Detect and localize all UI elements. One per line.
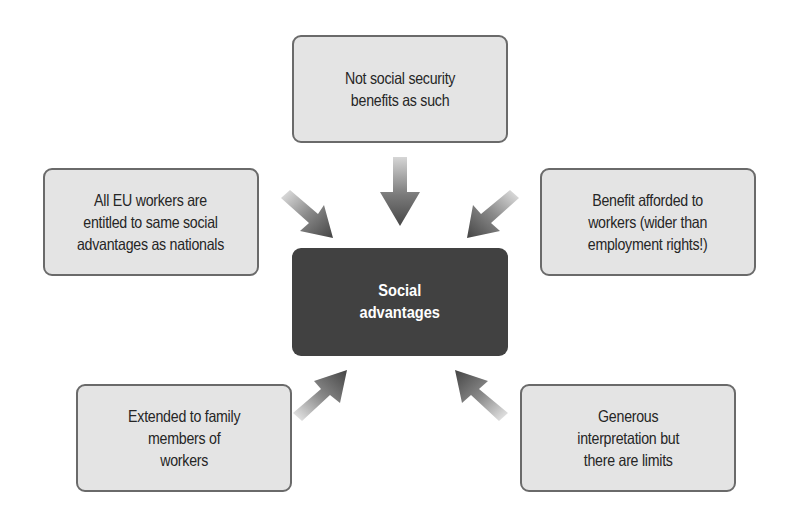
node-label: Not social security benefits as such (345, 67, 455, 111)
node-generous-interpretation: Generous interpretation but there are li… (520, 384, 736, 492)
node-family-members: Extended to family members of workers (76, 384, 292, 492)
arrow-up-right-icon (293, 370, 347, 421)
node-equal-treatment: All EU workers are entitled to same soci… (43, 168, 259, 276)
node-label: Benefit afforded to workers (wider than … (588, 189, 708, 255)
center-label: Social advantages (360, 280, 440, 324)
center-node-social-advantages: Social advantages (292, 248, 508, 356)
node-label: Extended to family members of workers (128, 405, 240, 471)
arrow-up-left-icon (455, 370, 508, 421)
arrow-down-left-icon (467, 190, 519, 238)
arrow-down-icon (380, 157, 420, 226)
node-benefit-to-workers: Benefit afforded to workers (wider than … (540, 168, 756, 276)
node-label: Generous interpretation but there are li… (577, 405, 679, 471)
node-label: All EU workers are entitled to same soci… (77, 189, 224, 255)
arrow-down-right-icon (281, 190, 333, 238)
node-not-social-security: Not social security benefits as such (292, 35, 508, 143)
